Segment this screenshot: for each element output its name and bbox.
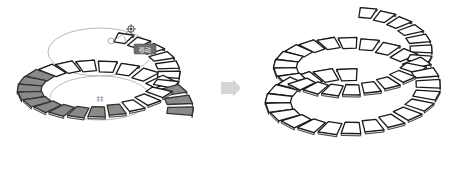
spiral-tile xyxy=(413,90,440,100)
left-panel-before: 移动 ‡‡ xyxy=(17,24,193,120)
figure-canvas: 移动 ‡‡ xyxy=(0,0,459,179)
spiral-tile xyxy=(337,69,357,81)
gizmo-label-text: 移动 xyxy=(139,46,151,54)
spiral-tile xyxy=(410,45,432,53)
spiral-tile xyxy=(155,61,179,69)
spiral-tile xyxy=(362,119,384,132)
transform-arrow xyxy=(221,79,241,97)
spiral-tile xyxy=(359,39,379,51)
center-marker: ‡‡ xyxy=(97,95,105,103)
spiral-tile[interactable] xyxy=(164,95,192,104)
spiral-tile xyxy=(98,61,117,72)
spiral-tile xyxy=(416,79,440,88)
spiral-tile xyxy=(406,34,431,43)
pivot-handle-icon[interactable] xyxy=(108,38,114,44)
spiral-tile[interactable] xyxy=(167,107,194,116)
spiral-tile xyxy=(338,37,357,48)
spiral-tile xyxy=(362,82,382,93)
gizmo-label-badge: 移动 xyxy=(134,44,156,54)
spiral-tile xyxy=(359,8,377,19)
right-panel-after xyxy=(265,8,440,137)
spiral-tile xyxy=(341,122,361,133)
spiral-tile xyxy=(342,85,360,95)
spiral-illustration: 移动 ‡‡ xyxy=(0,0,459,179)
